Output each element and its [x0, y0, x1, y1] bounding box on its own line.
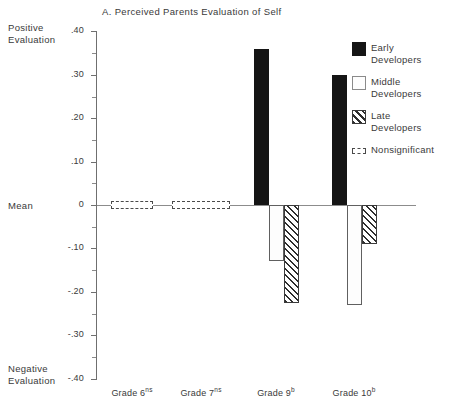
y-tick-major: -.40 [91, 379, 97, 380]
y-tick-minor [92, 227, 96, 228]
y-tick-major: .10 [91, 162, 97, 163]
y-tick-major: -.10 [91, 248, 97, 249]
y-tick-minor [92, 97, 96, 98]
bar [284, 205, 299, 303]
y-tick-label: .40 [71, 25, 84, 35]
bar [269, 205, 284, 261]
y-tick-major: 0 [91, 205, 97, 206]
y-tick-minor [92, 314, 96, 315]
y-tick-label: 0 [79, 199, 84, 209]
x-label-superscript: ns [214, 386, 221, 393]
x-label-superscript: b [291, 386, 295, 393]
nonsignificant-marker [172, 201, 230, 209]
y-tick-label: .20 [71, 112, 84, 122]
y-tick-label: -.10 [68, 242, 84, 252]
y-tick-minor [92, 140, 96, 141]
y-tick-minor [92, 53, 96, 54]
y-tick-major: .30 [91, 75, 97, 76]
figure-chart-a: A. Perceived Parents Evaluation of Self … [0, 0, 455, 416]
axis-caption-negative: NegativeEvaluation [8, 363, 55, 387]
legend-item: Middle Developers [352, 76, 452, 99]
chart-legend: Early DevelopersMiddle DevelopersLate De… [352, 42, 452, 167]
x-axis-label: Grade 9b [257, 388, 295, 398]
y-tick-label: .30 [71, 69, 84, 79]
x-label-superscript: ns [145, 386, 152, 393]
bar [347, 205, 362, 305]
axis-caption-mean: Mean [8, 200, 33, 212]
legend-item: Nonsignificant [352, 144, 452, 156]
legend-swatch-dashed-outline-icon [352, 148, 366, 154]
y-tick-major: .20 [91, 118, 97, 119]
x-axis-label: Grade 10b [333, 388, 376, 398]
legend-item: Early Developers [352, 42, 452, 65]
bar [332, 75, 347, 205]
y-tick-label: .10 [71, 156, 84, 166]
legend-label: Early Developers [371, 42, 422, 65]
x-axis-label: Grade 7ns [180, 388, 221, 398]
legend-label: Late Developers [371, 110, 422, 133]
y-tick-label: -.40 [68, 373, 84, 383]
y-tick-minor [92, 357, 96, 358]
legend-swatch-diagonal-hatch-icon [352, 110, 366, 124]
y-tick-label: -.20 [68, 286, 84, 296]
y-tick-major: -.30 [91, 335, 97, 336]
legend-swatch-dotted-icon [352, 76, 366, 90]
chart-title: A. Perceived Parents Evaluation of Self [102, 6, 281, 17]
y-tick-major: -.20 [91, 292, 97, 293]
legend-label: Middle Developers [371, 76, 422, 99]
y-tick-label: -.30 [68, 329, 84, 339]
bar [254, 49, 269, 205]
y-tick-major: .40 [91, 31, 97, 32]
x-label-superscript: b [372, 386, 376, 393]
legend-label: Nonsignificant [371, 144, 434, 156]
y-tick-minor [92, 270, 96, 271]
bar [362, 205, 377, 244]
legend-item: Late Developers [352, 110, 452, 133]
axis-caption-positive: PositiveEvaluation [8, 22, 55, 46]
legend-swatch-solid-black-icon [352, 42, 366, 56]
y-tick-minor [92, 183, 96, 184]
x-axis-label: Grade 6ns [111, 388, 152, 398]
nonsignificant-marker [111, 201, 153, 209]
